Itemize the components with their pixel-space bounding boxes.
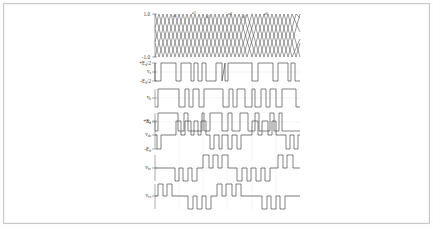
- pwm-waveform-figure: 1.0 -1.0 e1 e2 e3 e4 e5 e6: [0, 0, 433, 227]
- vbc-signal-label: vbc: [145, 164, 151, 171]
- line-voltage-ca-panel: vca: [145, 184, 300, 209]
- va-signal-label: va: [147, 68, 152, 75]
- pole-voltage-c-panel: vc: [147, 113, 300, 131]
- peak-label-e1: e1: [173, 13, 177, 18]
- peak-label-e4: e4: [228, 11, 232, 16]
- peak-label-e2: e2: [192, 10, 196, 15]
- line-voltage-ab-panel: +Ed vab -Ed: [143, 118, 300, 153]
- waveform-svg: 1.0 -1.0 e1 e2 e3 e4 e5 e6: [0, 0, 433, 227]
- vab-signal-label: vab: [145, 131, 151, 138]
- vca-signal-label: vca: [145, 192, 151, 199]
- peak-label-e5: e5: [242, 14, 246, 19]
- va-bottom-label: -Ed/2: [140, 78, 151, 85]
- vab-bottom-label: -Ed: [144, 146, 151, 153]
- line-voltage-bc-panel: vbc: [145, 155, 300, 181]
- vb-signal-label: vb: [147, 94, 152, 101]
- vca-waveform: [155, 184, 300, 209]
- carrier-reference-panel: 1.0 -1.0 e1 e2 e3 e4 e5 e6: [142, 10, 300, 60]
- figure-page: 1.0 -1.0 e1 e2 e3 e4 e5 e6: [0, 0, 433, 227]
- carrier-ytick-top-label: 1.0: [144, 11, 151, 17]
- vab-top-label: +Ed: [143, 118, 151, 125]
- peak-label-e3: e3: [206, 14, 210, 19]
- pole-voltage-b-panel: vb: [147, 89, 300, 107]
- va-top-label: +Ed/2: [139, 60, 151, 67]
